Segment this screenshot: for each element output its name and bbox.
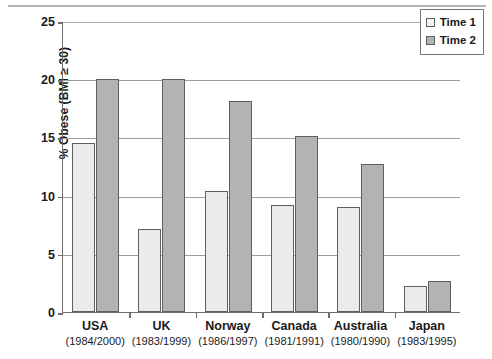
bar-group <box>129 22 195 312</box>
y-axis-tick-label: 25 <box>41 15 55 29</box>
legend-item: Time 2 <box>426 32 476 50</box>
y-axis-tick <box>58 313 63 315</box>
bar <box>295 136 318 312</box>
y-axis-tick-label: 10 <box>41 190 55 204</box>
x-axis-country-name: Japan <box>381 318 473 334</box>
plot-area: 0510152025 <box>62 22 460 313</box>
bar <box>72 143 95 312</box>
bar <box>138 229 161 312</box>
bar-group <box>395 22 461 312</box>
bar <box>428 281 451 312</box>
y-axis-tick-label: 15 <box>41 131 55 145</box>
y-axis-tick-label: 20 <box>41 73 55 87</box>
bar-group <box>196 22 262 312</box>
legend-item-label: Time 1 <box>440 14 476 32</box>
bar <box>229 101 252 312</box>
bar <box>404 286 427 312</box>
bar <box>361 164 384 312</box>
bar <box>162 79 185 312</box>
medium-gray-swatch <box>426 36 435 45</box>
chart-legend: Time 1Time 2 <box>420 9 484 55</box>
legend-item: Time 1 <box>426 14 476 32</box>
x-axis-label: Japan(1983/1995) <box>381 318 473 348</box>
bar <box>96 79 119 312</box>
light-gray-swatch <box>426 18 435 27</box>
obesity-bar-chart: % Obese (BMI ≥ 30) 0510152025 USA(1984/2… <box>0 0 492 359</box>
bar <box>205 191 228 312</box>
bar <box>337 207 360 312</box>
bar <box>271 205 294 312</box>
bar-group <box>63 22 129 312</box>
bar-group <box>262 22 328 312</box>
bar-series-container <box>63 22 460 312</box>
legend-item-label: Time 2 <box>440 32 476 50</box>
x-axis-year-range: (1983/1995) <box>381 334 473 348</box>
y-axis-tick-label: 5 <box>48 248 55 262</box>
bar-group <box>328 22 394 312</box>
